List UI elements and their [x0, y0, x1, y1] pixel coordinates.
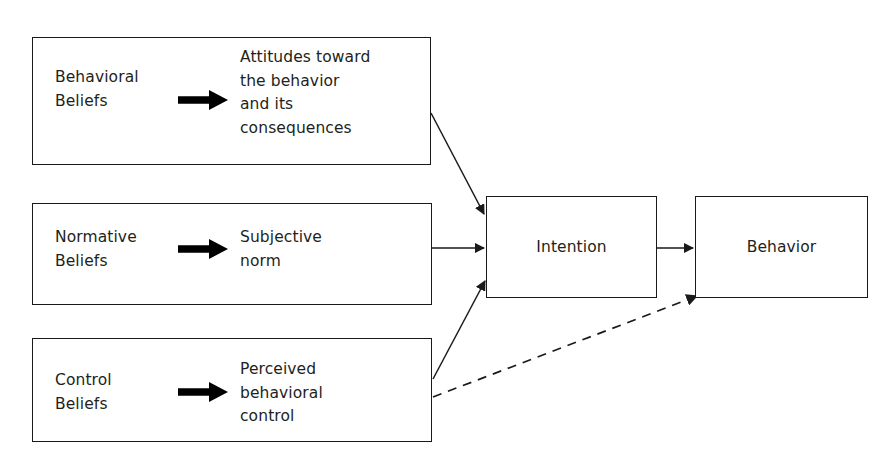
bold-right-arrow-icon-behavioral — [178, 89, 228, 111]
outcome-label-behavior: Behavior — [747, 238, 817, 256]
theory-of-planned-behavior-diagram: Behavioral Beliefs Attitudes toward the … — [0, 0, 894, 464]
bold-right-arrow-icon-normative — [178, 238, 228, 260]
outcome-label-intention: Intention — [536, 238, 606, 256]
belief-label-behavioral: Behavioral Beliefs — [55, 66, 185, 113]
construct-label-subjective-norm: Subjective norm — [240, 226, 415, 273]
belief-label-normative: Normative Beliefs — [55, 226, 185, 273]
connector-attitudes-to-intention — [431, 113, 484, 214]
connector-control-to-behavior — [433, 296, 697, 397]
belief-label-control: Control Beliefs — [55, 369, 185, 416]
connector-control-to-intention — [433, 281, 485, 379]
outcome-box-behavior: Behavior — [695, 196, 868, 298]
construct-label-perceived-behavioral-control: Perceived behavioral control — [240, 358, 415, 429]
construct-label-attitudes: Attitudes toward the behavior and its co… — [240, 46, 415, 140]
bold-right-arrow-icon-control — [178, 381, 228, 403]
outcome-box-intention: Intention — [486, 196, 657, 298]
